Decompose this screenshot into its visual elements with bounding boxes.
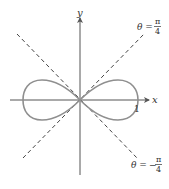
svg-text:θ =: θ = bbox=[131, 160, 147, 170]
svg-text:π: π bbox=[155, 17, 160, 26]
svg-text:4: 4 bbox=[155, 27, 160, 36]
line-theta-neg-pi-over-4 bbox=[17, 34, 137, 158]
label-theta-neg-pi-over-4: θ = − π 4 bbox=[131, 155, 162, 174]
lemniscate-diagram: y x 1 θ = π 4 θ = − π 4 bbox=[0, 0, 169, 189]
x-tick-label-1: 1 bbox=[134, 104, 140, 114]
svg-text:π: π bbox=[156, 155, 161, 164]
svg-text:θ =: θ = bbox=[137, 22, 153, 32]
x-axis-label: x bbox=[152, 94, 158, 105]
label-theta-pi-over-4: θ = π 4 bbox=[137, 17, 161, 36]
svg-text:4: 4 bbox=[156, 165, 161, 174]
y-axis-label: y bbox=[76, 7, 83, 18]
